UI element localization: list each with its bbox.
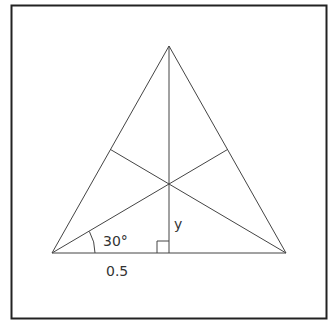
median-right: [111, 150, 287, 254]
median-left: [52, 150, 228, 254]
right-angle-marker: [157, 241, 169, 253]
height-label: y: [174, 216, 182, 232]
triangle: [52, 46, 286, 253]
angle-label: 30°: [103, 233, 128, 249]
half-base-label: 0.5: [106, 263, 128, 279]
triangle-diagram: 30° y 0.5: [0, 0, 336, 325]
angle-arc: [89, 232, 95, 254]
